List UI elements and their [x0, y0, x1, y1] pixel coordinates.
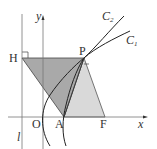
line-l-label: l [17, 130, 21, 144]
curve-c2-label: C2 [102, 9, 114, 24]
point-p-label: P [79, 44, 86, 58]
right-angle-h [22, 52, 28, 58]
curve-c1-label: C1 [126, 33, 138, 48]
point-a-label: A [55, 117, 64, 131]
point-h-label: H [9, 51, 18, 65]
diagram-canvas: y x O l H P A F C2 C1 [0, 0, 157, 149]
x-axis-arrow [143, 116, 148, 119]
origin-label: O [32, 117, 41, 131]
x-axis-label: x [137, 117, 144, 131]
y-axis-label: y [35, 9, 42, 23]
y-axis-arrow [42, 15, 45, 20]
point-f-label: F [100, 117, 107, 131]
